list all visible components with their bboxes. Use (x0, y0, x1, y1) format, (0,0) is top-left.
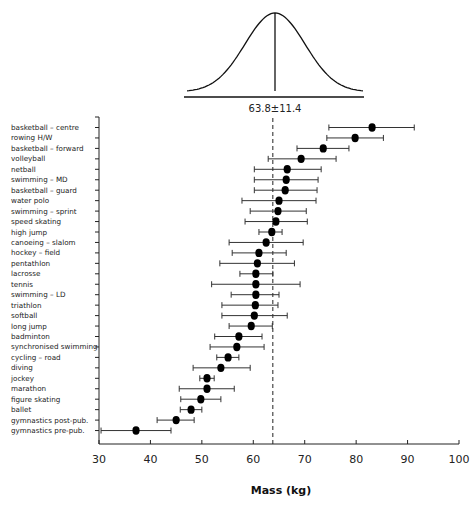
mean-marker (132, 426, 139, 434)
data-point (212, 280, 300, 288)
distribution-inset: 63.8±11.4 (184, 13, 364, 114)
data-point (229, 322, 272, 330)
data-point (231, 291, 279, 299)
category-label: lacrosse (11, 269, 41, 278)
data-point (240, 270, 273, 278)
category-label: figure skating (11, 395, 60, 404)
x-tick-label: 70 (298, 453, 312, 466)
category-label: triathlon (11, 301, 42, 310)
data-point (181, 395, 221, 403)
category-label: high jump (11, 228, 48, 237)
data-point (215, 332, 262, 340)
category-label: basketball – guard (11, 186, 77, 195)
category-label: gymnastics pre-pub. (11, 426, 85, 435)
axes: 30405060708090100 Mass (kg) (92, 117, 470, 497)
mean-marker (252, 291, 259, 299)
mean-marker (320, 144, 327, 152)
data-point (157, 416, 194, 424)
category-label: marathon (11, 384, 46, 393)
data-point (254, 176, 318, 184)
data-point (193, 364, 250, 372)
category-label: basketball – centre (11, 123, 80, 132)
category-label: synchronised swimming (11, 342, 98, 351)
category-label: gymnastics post-pub. (11, 416, 88, 425)
mean-marker (284, 165, 291, 173)
mean-marker (352, 134, 359, 142)
data-point (250, 207, 306, 215)
x-tick-label: 90 (401, 453, 415, 466)
data-point (217, 353, 239, 361)
data-point (254, 165, 321, 173)
data-point (259, 228, 282, 236)
category-label: swimming – sprint (11, 207, 77, 216)
category-label: badminton (11, 332, 50, 341)
category-label: speed skating (11, 217, 61, 226)
category-label: netball (11, 165, 36, 174)
data-point (232, 249, 286, 257)
mean-marker (233, 343, 240, 351)
x-tick-label: 80 (349, 453, 363, 466)
mean-marker (283, 176, 290, 184)
distribution-label: 63.8±11.4 (249, 103, 302, 114)
x-tick-label: 100 (449, 453, 470, 466)
category-label: canoeing – slalom (11, 238, 76, 247)
mean-marker (274, 207, 281, 215)
x-tick-label: 60 (246, 453, 260, 466)
data-point (242, 196, 316, 204)
x-tick-label: 40 (143, 453, 157, 466)
category-label: basketball – forward (11, 144, 84, 153)
mean-marker (252, 270, 259, 278)
data-point (222, 311, 287, 319)
chart: 63.8±11.4 30405060708090100 Mass (kg) ba… (0, 0, 476, 510)
mean-marker (224, 353, 231, 361)
mean-marker (263, 238, 270, 246)
x-axis-label: Mass (kg) (251, 484, 312, 497)
category-label: diving (11, 363, 33, 372)
mean-marker (254, 259, 261, 267)
category-label: swimming – MD (11, 175, 68, 184)
data-point (254, 186, 317, 194)
x-tick-label: 30 (92, 453, 106, 466)
data-point (222, 301, 278, 309)
mean-marker (203, 374, 210, 382)
data-point (180, 405, 202, 413)
y-ticks (95, 128, 99, 431)
mean-marker (187, 405, 194, 413)
data-point (329, 123, 414, 131)
data-point (327, 134, 384, 142)
category-label: long jump (11, 322, 47, 331)
data-point (245, 217, 307, 225)
category-label: hockey – field (11, 248, 60, 257)
mean-marker (252, 301, 259, 309)
data-point (268, 155, 336, 163)
mean-marker (268, 228, 275, 236)
category-label: cycling – road (11, 353, 61, 362)
mean-marker (272, 217, 279, 225)
data-point (179, 385, 234, 393)
category-label: jockey (10, 374, 35, 383)
category-labels: basketball – centrerowing H/Wbasketball … (10, 123, 98, 435)
data-point (200, 374, 214, 382)
data-point (101, 426, 171, 434)
mean-marker (282, 186, 289, 194)
mean-marker (275, 196, 282, 204)
data-points (101, 123, 414, 434)
category-label: pentathlon (11, 259, 50, 268)
category-label: ballet (11, 405, 31, 414)
data-point (220, 259, 295, 267)
mean-marker (251, 311, 258, 319)
data-point (210, 343, 264, 351)
mean-marker (235, 332, 242, 340)
data-point (229, 238, 303, 246)
mean-marker (368, 123, 375, 131)
mean-marker (252, 280, 259, 288)
category-label: softball (11, 311, 37, 320)
category-label: water polo (11, 196, 49, 205)
category-label: tennis (11, 280, 33, 289)
x-tick-label: 50 (195, 453, 209, 466)
mean-marker (248, 322, 255, 330)
mean-marker (298, 155, 305, 163)
category-label: volleyball (11, 154, 45, 163)
mean-marker (173, 416, 180, 424)
category-label: rowing H/W (11, 133, 52, 142)
